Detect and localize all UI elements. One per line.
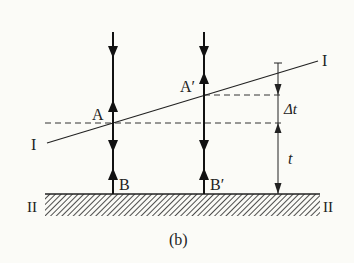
- label-ground-right: II: [323, 199, 333, 215]
- label-line-I-right: I: [322, 52, 327, 69]
- label-line-I-left: I: [31, 136, 36, 153]
- arrow-down-icon: [275, 84, 282, 95]
- measurement-line: [274, 63, 282, 194]
- diagram-canvas: I I II II A A′ B B′ Δt t (b): [0, 0, 354, 263]
- arrow-down-icon: [108, 46, 118, 58]
- label-point-A: A: [92, 106, 104, 123]
- label-delta-t: Δt: [283, 101, 298, 117]
- arrow-up-icon: [108, 168, 118, 180]
- ray-A-prime-B-prime: [199, 32, 209, 194]
- arrow-up-icon: [275, 123, 282, 133]
- arrow-down-icon: [108, 140, 118, 152]
- ray-A-B: [108, 32, 118, 194]
- label-ground-left: II: [27, 199, 37, 215]
- label-point-A-prime: A′: [180, 78, 195, 95]
- arrow-up-icon: [199, 72, 209, 84]
- label-point-B-prime: B′: [210, 176, 224, 193]
- arrow-down-icon: [275, 183, 282, 194]
- arrow-down-icon: [199, 140, 209, 152]
- label-point-B: B: [119, 176, 130, 193]
- arrow-down-icon: [199, 46, 209, 58]
- label-t: t: [288, 150, 293, 167]
- arrow-up-icon: [199, 168, 209, 180]
- figure-caption: (b): [169, 231, 188, 249]
- arrow-up-icon: [108, 100, 118, 112]
- ground-surface-II: [45, 194, 320, 216]
